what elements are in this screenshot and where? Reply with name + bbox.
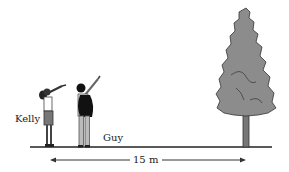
guy-figure xyxy=(77,76,101,148)
kelly-label: Kelly xyxy=(15,113,40,124)
tree xyxy=(216,8,276,147)
diagram-canvas xyxy=(0,0,289,172)
guy-label: Guy xyxy=(103,132,123,143)
kelly-figure xyxy=(39,85,66,147)
distance-label: 15 m xyxy=(133,154,158,165)
